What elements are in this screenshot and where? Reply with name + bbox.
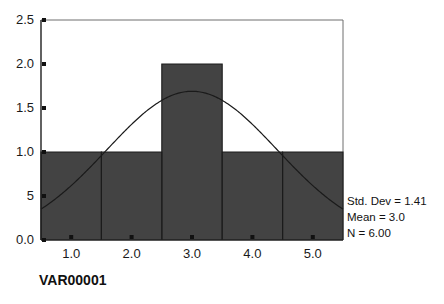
y-tick-mark <box>42 106 46 110</box>
y-tick-mark <box>42 194 46 198</box>
histogram-bar <box>222 152 282 240</box>
x-tick-mark <box>190 235 194 239</box>
x-tick-mark <box>130 235 134 239</box>
stat-n: N = 6.00 <box>347 227 391 239</box>
chart-canvas: 0.051.01.52.02.5 1.02.03.04.05.0 Std. De… <box>0 0 444 304</box>
y-tick-mark <box>42 62 46 66</box>
x-tick-label: 3.0 <box>183 246 201 261</box>
x-axis-title: VAR00001 <box>39 272 107 288</box>
y-tick-label: 1.5 <box>16 100 34 115</box>
histogram-bar <box>162 64 222 240</box>
x-tick-label: 5.0 <box>304 246 322 261</box>
y-tick-mark <box>42 18 46 22</box>
y-tick-label: 2.0 <box>16 56 34 71</box>
y-tick-label: 2.5 <box>16 12 34 27</box>
x-tick-label: 1.0 <box>62 246 80 261</box>
histogram-chart: 0.051.01.52.02.5 1.02.03.04.05.0 Std. De… <box>0 0 444 304</box>
x-tick-mark <box>311 235 315 239</box>
y-tick-mark <box>42 238 46 242</box>
x-tick-label: 2.0 <box>123 246 141 261</box>
x-tick-label: 4.0 <box>243 246 261 261</box>
histogram-bar <box>101 152 161 240</box>
x-tick-mark <box>69 235 73 239</box>
stat-std-dev: Std. Dev = 1.41 <box>347 195 427 207</box>
y-tick-label: 5 <box>27 188 34 203</box>
stat-mean: Mean = 3.0 <box>347 211 405 223</box>
y-tick-label: 1.0 <box>16 144 34 159</box>
y-tick-mark <box>42 150 46 154</box>
x-tick-mark <box>250 235 254 239</box>
y-tick-label: 0.0 <box>16 232 34 247</box>
